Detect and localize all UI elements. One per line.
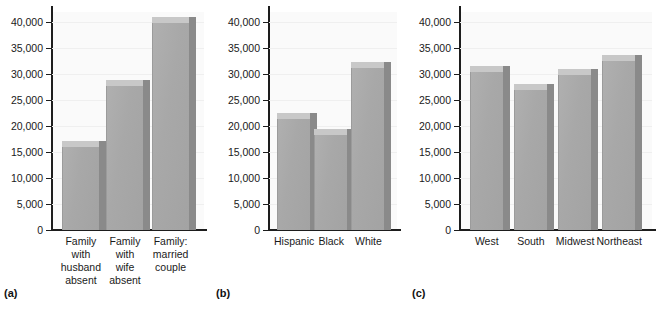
bar bbox=[514, 84, 554, 230]
bar bbox=[277, 113, 317, 230]
x-axis-tick-label: West bbox=[475, 235, 499, 248]
y-axis-tick-label: 40,000 bbox=[11, 17, 43, 28]
bar-front-face bbox=[106, 86, 143, 230]
bar bbox=[106, 80, 150, 230]
y-axis-tick-label: 20,000 bbox=[228, 121, 260, 132]
y-axis-tick-label: 30,000 bbox=[11, 69, 43, 80]
y-axis-tick-label: 0 bbox=[254, 225, 260, 236]
y-axis-b bbox=[268, 6, 270, 230]
bar bbox=[602, 55, 642, 230]
y-axis-tick-label: 0 bbox=[445, 225, 451, 236]
x-axis-tick-label: Black bbox=[318, 235, 344, 248]
bar bbox=[470, 66, 510, 230]
y-axis-c bbox=[459, 6, 461, 230]
x-axis-tick-label: Midwest bbox=[556, 235, 595, 248]
y-axis-tick-label: 20,000 bbox=[11, 121, 43, 132]
bar-side-face bbox=[635, 55, 642, 230]
x-axis-tick-label: South bbox=[517, 235, 544, 248]
y-axis-tick-label: 35,000 bbox=[419, 43, 451, 54]
x-axis-tick-label: Hispanic bbox=[274, 235, 314, 248]
bar-front-face bbox=[351, 68, 384, 230]
bar-left-edge bbox=[602, 61, 603, 230]
y-axis-tick-label: 25,000 bbox=[419, 95, 451, 106]
y-axis-tick bbox=[263, 230, 269, 231]
bar-side-face bbox=[591, 69, 598, 230]
gridline bbox=[460, 48, 652, 49]
y-axis-tick-label: 35,000 bbox=[11, 43, 43, 54]
bar-front-face bbox=[152, 23, 189, 230]
bar-front-face bbox=[62, 147, 99, 230]
gridline bbox=[269, 48, 397, 49]
y-axis-tick-label: 15,000 bbox=[419, 147, 451, 158]
bar bbox=[351, 62, 391, 230]
bar-left-edge bbox=[62, 147, 63, 230]
x-axis-tick-label: White bbox=[355, 235, 382, 248]
y-axis-tick bbox=[46, 230, 52, 231]
plot-area-b: 05,00010,00015,00020,00025,00030,00035,0… bbox=[269, 12, 397, 230]
panel-label-a: (a) bbox=[4, 287, 17, 299]
bar-side-face bbox=[143, 80, 150, 230]
y-axis-tick-label: 5,000 bbox=[425, 199, 451, 210]
x-axis-tick-label: Family with wife absent bbox=[109, 235, 141, 287]
y-axis-a bbox=[51, 6, 53, 230]
panel-label-c: (c) bbox=[412, 287, 425, 299]
y-axis-tick-label: 20,000 bbox=[419, 121, 451, 132]
bar-left-edge bbox=[314, 135, 315, 231]
bar-left-edge bbox=[470, 72, 471, 230]
y-axis-tick-label: 10,000 bbox=[11, 173, 43, 184]
three-panel-bar-chart-figure: 05,00010,00015,00020,00025,00030,00035,0… bbox=[0, 0, 660, 309]
y-axis-tick-label: 30,000 bbox=[419, 69, 451, 80]
bar bbox=[152, 17, 196, 230]
bar bbox=[558, 69, 598, 230]
y-axis-tick-label: 10,000 bbox=[419, 173, 451, 184]
y-axis-tick-label: 40,000 bbox=[419, 17, 451, 28]
bar-left-edge bbox=[106, 86, 107, 230]
bar bbox=[314, 129, 354, 231]
bar-front-face bbox=[514, 90, 547, 230]
y-axis-tick-label: 5,000 bbox=[234, 199, 260, 210]
bar-front-face bbox=[314, 135, 347, 231]
y-axis-tick-label: 30,000 bbox=[228, 69, 260, 80]
bar-left-edge bbox=[351, 68, 352, 230]
gridline bbox=[460, 22, 652, 23]
panel-label-b: (b) bbox=[216, 287, 230, 299]
x-axis-tick-label: Family with husband absent bbox=[61, 235, 101, 287]
y-axis-tick-label: 35,000 bbox=[228, 43, 260, 54]
chart-panel-c: 05,00010,00015,00020,00025,00030,00035,0… bbox=[408, 0, 660, 309]
bar-side-face bbox=[503, 66, 510, 230]
bar-side-face bbox=[384, 62, 391, 230]
bar bbox=[62, 141, 106, 230]
y-axis-tick-label: 25,000 bbox=[228, 95, 260, 106]
plot-area-a: 05,00010,00015,00020,00025,00030,00035,0… bbox=[52, 12, 204, 230]
chart-panel-a: 05,00010,00015,00020,00025,00030,00035,0… bbox=[0, 0, 212, 309]
y-axis-tick bbox=[454, 230, 460, 231]
y-axis-tick-label: 40,000 bbox=[228, 17, 260, 28]
x-axis-tick-label: Family: married couple bbox=[153, 235, 189, 274]
gridline bbox=[269, 22, 397, 23]
y-axis-tick-label: 25,000 bbox=[11, 95, 43, 106]
plot-area-c: 05,00010,00015,00020,00025,00030,00035,0… bbox=[460, 12, 652, 230]
y-axis-tick-label: 0 bbox=[37, 225, 43, 236]
bar-left-edge bbox=[152, 23, 153, 230]
y-axis-tick-label: 5,000 bbox=[17, 199, 43, 210]
chart-panel-b: 05,00010,00015,00020,00025,00030,00035,0… bbox=[212, 0, 408, 309]
bar-front-face bbox=[602, 61, 635, 230]
bar-front-face bbox=[277, 119, 310, 230]
bar-left-edge bbox=[277, 119, 278, 230]
bar-left-edge bbox=[514, 90, 515, 230]
bar-side-face bbox=[99, 141, 106, 230]
bar-side-face bbox=[547, 84, 554, 230]
bar-front-face bbox=[558, 75, 591, 230]
y-axis-tick-label: 15,000 bbox=[228, 147, 260, 158]
bar-left-edge bbox=[558, 75, 559, 230]
y-axis-tick-label: 15,000 bbox=[11, 147, 43, 158]
y-axis-tick-label: 10,000 bbox=[228, 173, 260, 184]
bar-front-face bbox=[470, 72, 503, 230]
x-axis-tick-label: Northeast bbox=[596, 235, 642, 248]
bar-side-face bbox=[189, 17, 196, 230]
